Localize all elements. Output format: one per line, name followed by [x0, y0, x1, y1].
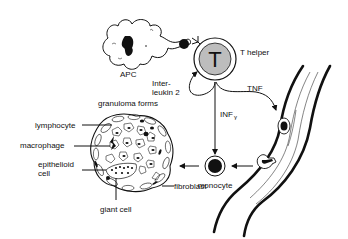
granuloma: [91, 114, 173, 192]
t-glyph: T: [208, 47, 221, 72]
t-helper-cell: T T helper: [194, 38, 270, 80]
interleukin-label-2: leukin 2: [152, 88, 180, 97]
infg-label: INFγ: [220, 110, 237, 120]
granuloma-formation-diagram: APC T T helper Inter- leukin 2 TNF INFγ …: [0, 0, 348, 239]
tnf-edge: TNF: [216, 82, 276, 110]
tnf-label: TNF: [247, 84, 263, 93]
granuloma-title: granuloma forms: [98, 99, 158, 108]
infg-edge: INFγ: [215, 82, 237, 154]
epithelioid-label-1: epithelioid: [38, 160, 74, 169]
giant-cell-label: giant cell: [100, 205, 132, 214]
t-helper-label: T helper: [240, 48, 270, 57]
interleukin-label-1: Inter-: [152, 79, 171, 88]
macrophage-label: macrophage: [20, 141, 65, 150]
epithelioid-label-2: cell: [38, 169, 50, 178]
apc-label: APC: [120, 70, 137, 79]
apc-cell: APC: [103, 20, 191, 79]
fibroblast-label: fibroblast: [174, 182, 207, 191]
lymphocyte-label: lymphocyte: [35, 121, 76, 130]
